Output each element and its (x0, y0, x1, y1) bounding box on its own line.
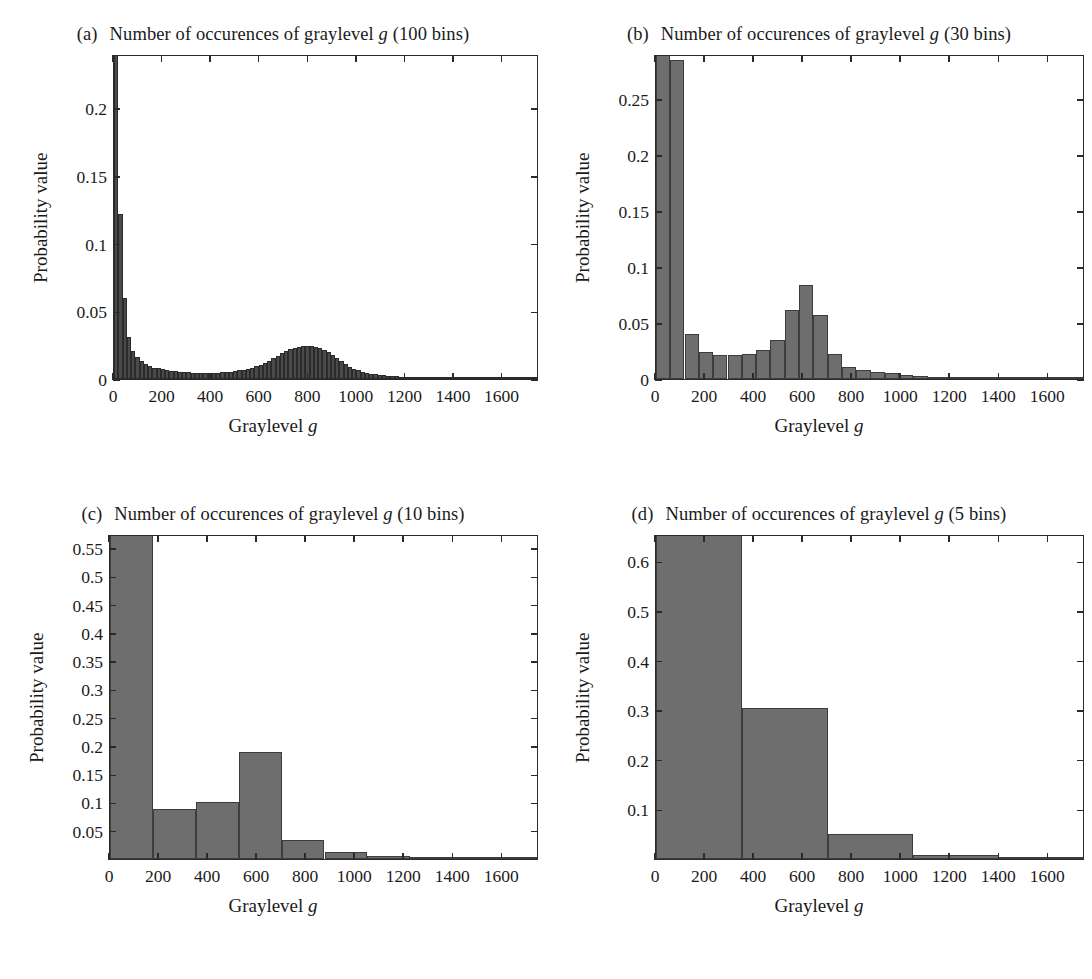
y-tick (531, 244, 538, 245)
y-tick (531, 176, 538, 177)
panel-c-title-italic: g (383, 504, 392, 524)
x-tick-label: 1200 (932, 386, 967, 407)
x-tick-label: 1200 (387, 386, 422, 407)
y-tick-label: 0.4 (43, 623, 103, 644)
y-tick (113, 244, 120, 245)
y-tick (531, 577, 538, 578)
x-tick (157, 853, 158, 860)
y-tick (113, 176, 120, 177)
panel-b-bars (656, 56, 1083, 379)
y-tick (1077, 562, 1084, 563)
y-tick (109, 775, 116, 776)
y-tick-label: 0.45 (43, 595, 103, 616)
y-tick-label: 0.5 (589, 601, 649, 622)
y-tick-label: 0.55 (43, 539, 103, 560)
x-tick (255, 853, 256, 860)
y-tick (655, 760, 662, 761)
x-tick-label: 200 (691, 386, 717, 407)
x-tick (304, 535, 305, 542)
x-tick (161, 55, 162, 62)
x-tick (452, 55, 453, 62)
x-tick (752, 853, 753, 860)
x-tick (307, 373, 308, 380)
y-tick (1077, 810, 1084, 811)
x-tick (209, 373, 210, 380)
y-tick (109, 661, 116, 662)
x-tick (801, 373, 802, 380)
y-tick-label: 0.05 (589, 313, 649, 334)
bar (110, 535, 153, 859)
panel-b-ylabel: Probability value (572, 152, 594, 282)
y-tick (109, 831, 116, 832)
x-tick-label: 1000 (883, 866, 918, 887)
x-tick (258, 55, 259, 62)
bar (842, 367, 856, 379)
y-tick (1077, 379, 1084, 380)
x-tick (402, 535, 403, 542)
bar (770, 340, 784, 379)
bar (828, 354, 842, 379)
panel-b-xlabel: Graylevel g (546, 415, 1092, 437)
panel-d-title-bins: (5 bins) (949, 504, 1007, 524)
x-tick (998, 55, 999, 62)
y-tick-label: 0.2 (589, 750, 649, 771)
x-tick (108, 853, 109, 860)
bar (699, 352, 713, 379)
y-tick (113, 379, 120, 380)
x-tick (752, 55, 753, 62)
y-tick-label: 0.05 (47, 302, 107, 323)
y-tick (531, 108, 538, 109)
x-tick (501, 853, 502, 860)
x-tick-label: 1400 (436, 386, 471, 407)
x-tick (1047, 535, 1048, 542)
y-tick (655, 99, 662, 100)
y-tick-label: 0.25 (589, 89, 649, 110)
bar (196, 802, 239, 859)
panel-d-tag: (d) (632, 504, 654, 524)
y-tick (531, 605, 538, 606)
bar (785, 310, 799, 379)
panel-a-title-bins: (100 bins) (393, 24, 470, 44)
y-tick-label: 0.2 (43, 736, 103, 757)
panel-c-title: (c)Number of occurences of graylevel g (… (0, 504, 546, 525)
panel-c-title-bins: (10 bins) (397, 504, 464, 524)
x-tick-label: 800 (294, 386, 320, 407)
x-tick (255, 535, 256, 542)
panel-d: (d)Number of occurences of graylevel g (… (546, 490, 1092, 960)
x-tick (654, 55, 655, 62)
panel-c-xlabel: Graylevel g (0, 895, 546, 917)
panel-c-ylabel: Probability value (26, 632, 48, 762)
panel-c-bars (110, 536, 537, 859)
x-tick-label: 400 (194, 866, 220, 887)
x-tick (998, 535, 999, 542)
y-tick (109, 718, 116, 719)
y-tick (113, 312, 120, 313)
x-tick-label: 1200 (932, 866, 967, 887)
y-tick (1077, 267, 1084, 268)
bar (713, 355, 727, 379)
panel-d-xlabel-text: Graylevel (774, 895, 849, 916)
y-tick (1077, 211, 1084, 212)
y-tick (655, 611, 662, 612)
x-tick (206, 535, 207, 542)
y-tick-label: 0.5 (43, 567, 103, 588)
x-tick-label: 0 (651, 866, 660, 887)
bar (325, 852, 368, 859)
x-tick (206, 853, 207, 860)
x-tick-label: 1000 (338, 386, 373, 407)
x-tick (501, 55, 502, 62)
x-tick-label: 200 (148, 386, 174, 407)
x-tick-label: 600 (789, 386, 815, 407)
x-tick-label: 1400 (981, 866, 1016, 887)
x-tick (353, 853, 354, 860)
y-tick (655, 323, 662, 324)
panel-a-plot-area (113, 55, 538, 380)
y-tick (1077, 99, 1084, 100)
x-tick (1047, 55, 1048, 62)
y-tick (655, 810, 662, 811)
x-tick-label: 1000 (337, 866, 372, 887)
bar (999, 377, 1013, 379)
panel-a-title: (a)Number of occurences of graylevel g (… (0, 24, 546, 45)
panel-a-bars (114, 56, 537, 379)
panel-b-xlabel-text: Graylevel (774, 415, 849, 436)
